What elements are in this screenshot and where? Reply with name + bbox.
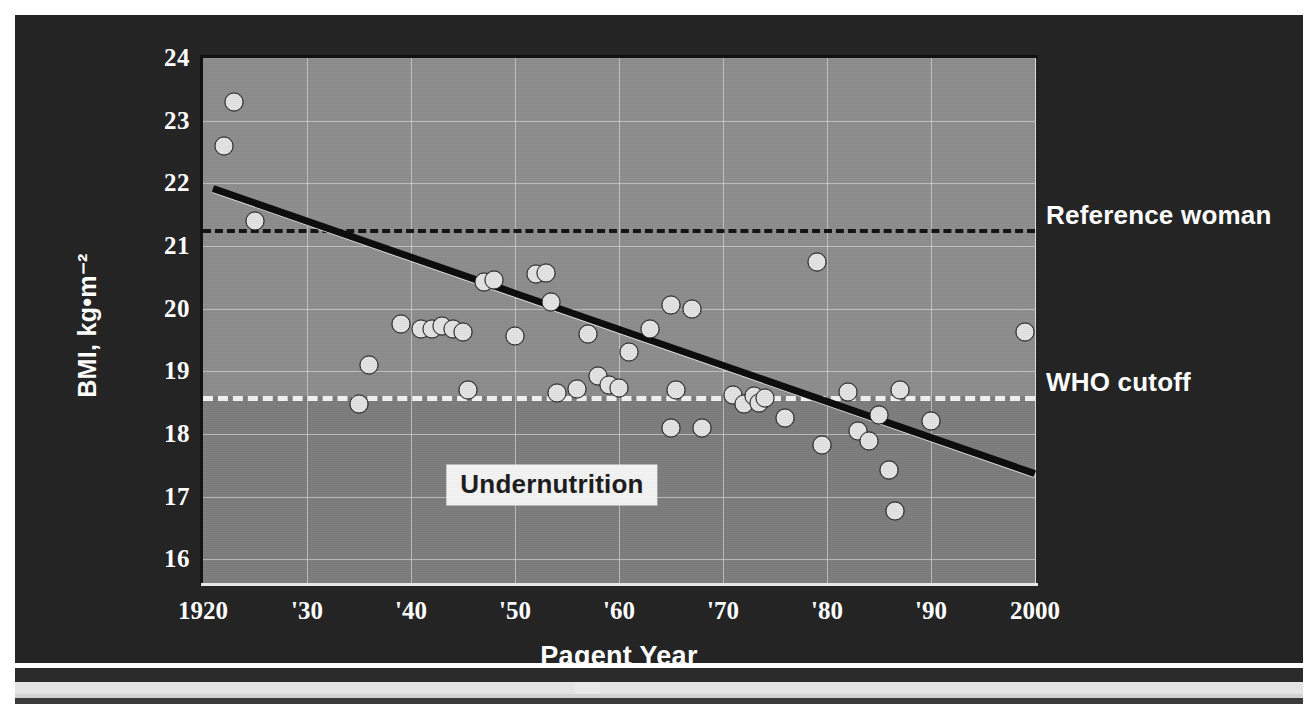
y-tick-label: 24 — [164, 44, 190, 72]
data-point — [360, 355, 379, 374]
x-axis-line — [201, 583, 1038, 586]
undernutrition-label: Undernutrition — [446, 464, 657, 505]
screenshot-root: 242322212019181716 1920'30'40'50'60'70'8… — [0, 0, 1316, 704]
x-tick-label: '30 — [291, 597, 323, 625]
x-tick-label: '70 — [707, 597, 739, 625]
data-point — [485, 271, 504, 290]
data-point — [246, 211, 265, 230]
filmstrip-ghost-left — [15, 682, 575, 694]
data-point — [214, 136, 233, 155]
gridline-vertical — [931, 58, 932, 583]
who-cutoff-label: WHO cutoff — [1046, 367, 1191, 398]
reference-woman-label: Reference woman — [1046, 200, 1272, 231]
filmstrip-dark-band — [15, 668, 1303, 682]
y-tick-label: 16 — [164, 545, 190, 573]
data-point — [755, 388, 774, 407]
x-axis-tick-labels: 1920'30'40'50'60'70'80'902000 — [203, 597, 1035, 631]
y-axis-tick-labels: 242322212019181716 — [120, 58, 190, 583]
filmstrip-bottom-band — [15, 698, 1303, 704]
filmstrip-ghost-right — [600, 682, 1303, 694]
y-tick-label: 23 — [164, 107, 190, 135]
reference-line-who-cutoff — [203, 396, 1035, 401]
data-point — [459, 381, 478, 400]
data-point — [454, 323, 473, 342]
gridline-vertical — [723, 58, 724, 583]
x-tick-label: '90 — [915, 597, 947, 625]
x-tick-label: '60 — [603, 597, 635, 625]
data-point — [578, 324, 597, 343]
data-point — [890, 381, 909, 400]
x-tick-label: '50 — [499, 597, 531, 625]
data-point — [885, 501, 904, 520]
gridline-vertical — [307, 58, 308, 583]
data-point — [682, 299, 701, 318]
data-point — [922, 412, 941, 431]
y-tick-label: 22 — [164, 169, 190, 197]
data-point — [641, 320, 660, 339]
data-point — [391, 315, 410, 334]
y-axis-title: BMI, kg•m⁻² — [73, 196, 102, 456]
slide-panel: 242322212019181716 1920'30'40'50'60'70'8… — [15, 15, 1303, 663]
y-tick-label: 19 — [164, 357, 190, 385]
gridline-vertical — [411, 58, 412, 583]
data-point — [350, 395, 369, 414]
gridline-vertical — [827, 58, 828, 583]
data-point — [880, 461, 899, 480]
data-point — [610, 378, 629, 397]
data-point — [776, 409, 795, 428]
x-tick-label: '80 — [811, 597, 843, 625]
data-point — [693, 418, 712, 437]
data-point — [838, 382, 857, 401]
x-tick-label: 2000 — [1010, 597, 1060, 625]
data-point — [662, 296, 681, 315]
data-point — [568, 379, 587, 398]
data-point — [537, 263, 556, 282]
x-tick-label: '40 — [395, 597, 427, 625]
data-point — [620, 342, 639, 361]
data-point — [812, 436, 831, 455]
y-tick-label: 21 — [164, 232, 190, 260]
data-point — [506, 326, 525, 345]
data-point — [225, 92, 244, 111]
data-point — [859, 432, 878, 451]
data-point — [870, 406, 889, 425]
y-tick-label: 20 — [164, 295, 190, 323]
data-point — [667, 381, 686, 400]
y-tick-label: 18 — [164, 420, 190, 448]
data-point — [662, 418, 681, 437]
data-point — [807, 252, 826, 271]
y-tick-label: 17 — [164, 483, 190, 511]
data-point — [542, 293, 561, 312]
data-point — [547, 383, 566, 402]
x-tick-label: 1920 — [178, 597, 228, 625]
data-point — [1015, 323, 1034, 342]
